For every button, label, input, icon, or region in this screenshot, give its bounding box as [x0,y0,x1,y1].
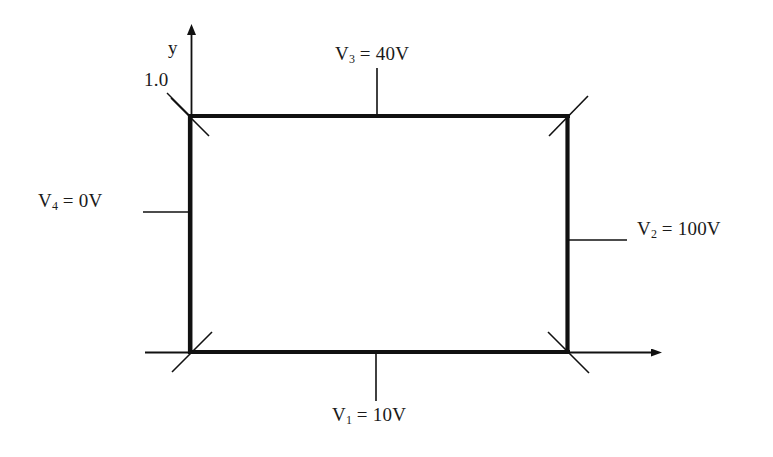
boundary-label-v4: V4 = 0V [38,191,102,212]
leader-line-y-tick [167,93,189,115]
v4-value: = 0V [58,190,102,211]
v3-symbol: V [335,43,349,64]
y-tick-label-1: 1.0 [144,70,168,89]
y-tick-label-text: 1.0 [144,69,168,90]
v4-symbol: V [38,190,52,211]
y-axis-label: y [168,38,178,57]
figure-canvas: y 1.0 V3 = 40V V1 = 10V V4 = 0V V2 = 100… [0,0,773,457]
y-axis-label-text: y [168,37,178,58]
v3-value: = 40V [355,43,409,64]
v1-symbol: V [332,404,346,425]
v2-value: = 100V [657,218,721,239]
boundary-label-v1: V1 = 10V [332,405,406,426]
v1-value: = 10V [352,404,406,425]
v2-symbol: V [637,218,651,239]
boundary-label-v3: V3 = 40V [335,44,409,65]
boundary-label-v2: V2 = 100V [637,219,721,240]
